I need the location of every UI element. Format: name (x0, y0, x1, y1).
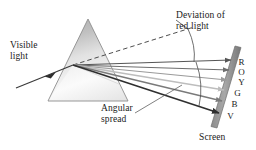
spectrum-letter-yellow: Y (236, 78, 247, 87)
spectrum-letter-green: G (232, 89, 243, 98)
deviation-angle-arc (188, 29, 194, 62)
label-deviation-of-red-light: Deviation of red light (176, 10, 225, 31)
prism-dispersion-figure: Visible light Deviation of red light Ang… (0, 0, 256, 150)
label-angular-spread: Angular spread (101, 103, 133, 124)
spectrum-letter-orange: O (236, 68, 247, 77)
label-visible-light: Visible light (10, 40, 38, 61)
label-screen: Screen (199, 132, 225, 143)
spectrum-letter-blue: B (229, 100, 240, 109)
spectrum-letter-red: R (236, 58, 247, 67)
spectrum-letter-violet: V (225, 112, 236, 121)
